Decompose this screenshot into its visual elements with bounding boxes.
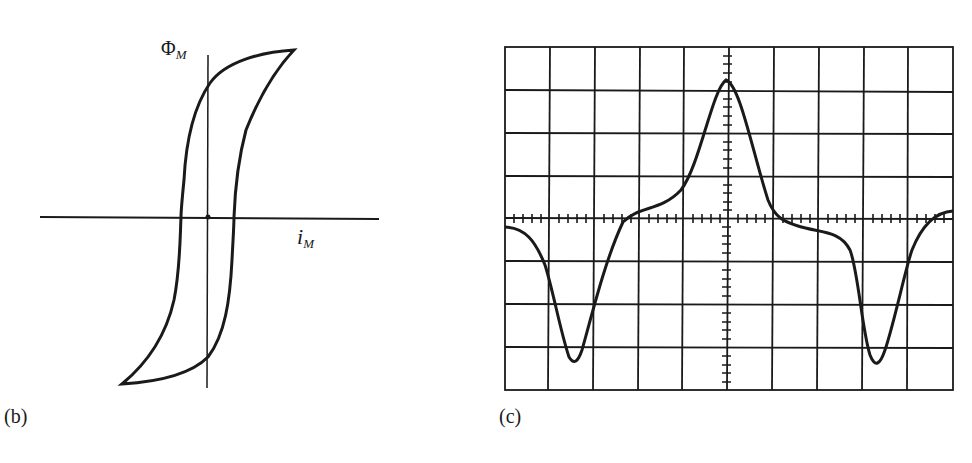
y-axis-label: ΦM	[161, 37, 186, 60]
panel-c-label: (c)	[499, 405, 521, 428]
phi-symbol: Φ	[161, 37, 176, 59]
origin-dot	[206, 215, 211, 220]
y-axis	[207, 55, 208, 388]
x-axis-label: iM	[297, 224, 314, 250]
figure-canvas	[0, 0, 972, 463]
phi-subscript: M	[176, 47, 187, 62]
current-subscript: M	[303, 236, 314, 251]
panel-b-label: (b)	[4, 405, 27, 428]
oscilloscope-diagram	[505, 47, 953, 390]
hysteresis-diagram	[40, 50, 379, 388]
